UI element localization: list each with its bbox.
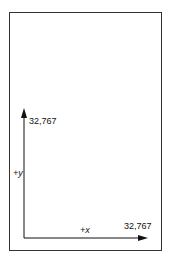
y-axis-arrow-icon [21, 108, 27, 118]
x-max-label: 32,767 [124, 221, 152, 231]
y-max-label: 32,767 [29, 116, 57, 126]
x-axis-label: +x [80, 225, 90, 235]
y-axis-label: +y [13, 168, 23, 178]
x-axis-arrow-icon [138, 235, 148, 241]
